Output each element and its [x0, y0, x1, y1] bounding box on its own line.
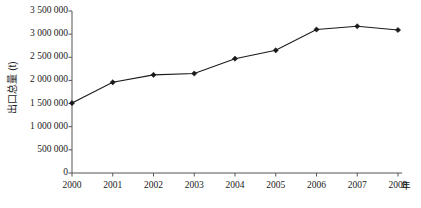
data-point-marker	[314, 27, 319, 32]
line-chart: 出口总量 (t) 0500 0001 000 0001 500 0002 000…	[0, 0, 421, 208]
data-point-marker	[355, 24, 360, 29]
data-point-marker	[273, 48, 278, 53]
data-point-marker	[69, 101, 74, 106]
data-point-marker	[110, 80, 115, 85]
axis-lines	[72, 11, 402, 173]
plot-area	[0, 0, 421, 208]
data-point-markers	[69, 24, 400, 106]
data-point-marker	[151, 72, 156, 77]
series-line	[72, 26, 398, 103]
data-point-marker	[232, 56, 237, 61]
data-point-marker	[192, 71, 197, 76]
data-point-marker	[395, 27, 400, 32]
axis-ticks	[69, 11, 399, 177]
